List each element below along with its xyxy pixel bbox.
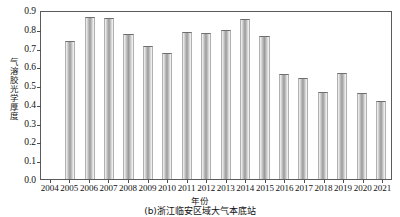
figure-caption: (b)浙江临安区域大气本底站 bbox=[0, 204, 400, 217]
bar-slot bbox=[197, 12, 216, 179]
bar-series bbox=[41, 12, 391, 179]
bar-slot bbox=[138, 12, 157, 179]
y-axis-tick-labels: 0.90.80.70.60.50.40.30.20.10.0 bbox=[14, 0, 38, 185]
x-axis-tick: 2011 bbox=[177, 180, 197, 194]
bar bbox=[85, 17, 95, 179]
x-axis-tick: 2012 bbox=[196, 180, 216, 194]
x-axis-tick-label: 2017 bbox=[295, 183, 313, 193]
bar-slot bbox=[41, 12, 60, 179]
bar bbox=[65, 41, 75, 179]
x-axis-tick: 2006 bbox=[79, 180, 99, 194]
y-axis-tick-mark bbox=[37, 87, 41, 88]
bar bbox=[318, 92, 328, 180]
y-axis-tick-label: 0.8 bbox=[24, 25, 36, 35]
x-axis-tick-label: 2007 bbox=[99, 183, 117, 193]
bar-slot bbox=[119, 12, 138, 179]
x-axis-tick: 2015 bbox=[255, 180, 275, 194]
x-axis-tick-label: 2006 bbox=[80, 183, 98, 193]
bar-slot bbox=[294, 12, 313, 179]
bar bbox=[182, 32, 192, 179]
y-axis-tick-label: 0.0 bbox=[24, 175, 36, 185]
x-axis-tick: 2019 bbox=[333, 180, 353, 194]
y-axis-tick-label: 0.2 bbox=[24, 137, 36, 147]
bar bbox=[123, 34, 133, 179]
x-axis-tick-label: 2010 bbox=[158, 183, 176, 193]
y-axis-tick-label: 0.5 bbox=[24, 81, 36, 91]
bar-slot bbox=[80, 12, 99, 179]
y-axis-tick-label: 0.3 bbox=[24, 119, 36, 129]
plot-area bbox=[40, 11, 392, 180]
x-axis-tick: 2007 bbox=[99, 180, 119, 194]
y-axis-tick-mark bbox=[37, 143, 41, 144]
y-axis-tick-label: 0.1 bbox=[24, 156, 36, 166]
bar-slot bbox=[99, 12, 118, 179]
x-axis-tick: 2020 bbox=[353, 180, 373, 194]
x-axis-tick: 2008 bbox=[118, 180, 138, 194]
x-axis-tick-labels: 2004200520062007200820092010201120122013… bbox=[40, 180, 392, 194]
bar-slot bbox=[313, 12, 332, 179]
bar-slot bbox=[333, 12, 352, 179]
x-axis-tick-label: 2021 bbox=[373, 183, 391, 193]
x-axis-tick-label: 2015 bbox=[256, 183, 274, 193]
bar-slot bbox=[371, 12, 390, 179]
bar-slot bbox=[235, 12, 254, 179]
x-axis-tick-label: 2012 bbox=[197, 183, 215, 193]
x-axis-tick: 2004 bbox=[40, 180, 60, 194]
y-axis-tick-label: 0.7 bbox=[24, 44, 36, 54]
y-axis-tick-mark bbox=[37, 106, 41, 107]
x-axis-tick-label: 2020 bbox=[354, 183, 372, 193]
bar bbox=[143, 46, 153, 179]
bar bbox=[279, 74, 289, 179]
x-axis-tick-label: 2014 bbox=[236, 183, 254, 193]
x-axis-tick: 2016 bbox=[275, 180, 295, 194]
bar-slot bbox=[60, 12, 79, 179]
x-axis-tick: 2021 bbox=[372, 180, 392, 194]
bar bbox=[337, 73, 347, 179]
x-axis-tick: 2010 bbox=[157, 180, 177, 194]
bar bbox=[240, 19, 250, 179]
y-axis-tick-mark bbox=[37, 125, 41, 126]
x-axis-tick: 2018 bbox=[314, 180, 334, 194]
x-axis-tick-label: 2013 bbox=[217, 183, 235, 193]
x-axis-tick-label: 2016 bbox=[275, 183, 293, 193]
bar-slot bbox=[352, 12, 371, 179]
bar bbox=[221, 30, 231, 179]
bar bbox=[162, 53, 172, 179]
x-axis-tick-label: 2019 bbox=[334, 183, 352, 193]
bar-slot bbox=[255, 12, 274, 179]
x-axis-tick-label: 2008 bbox=[119, 183, 137, 193]
x-axis-tick-label: 2004 bbox=[41, 183, 59, 193]
bar bbox=[259, 36, 269, 179]
bar-slot bbox=[274, 12, 293, 179]
bar bbox=[201, 33, 211, 179]
x-axis-tick-label: 2018 bbox=[315, 183, 333, 193]
x-axis-tick-label: 2009 bbox=[139, 183, 157, 193]
aerosol-optical-depth-bar-chart: 气溶胶光学厚度 0.90.80.70.60.50.40.30.20.10.0 2… bbox=[0, 0, 400, 217]
x-axis-tick: 2005 bbox=[60, 180, 80, 194]
bar bbox=[298, 78, 308, 179]
y-axis-tick-mark bbox=[37, 31, 41, 32]
bar bbox=[357, 93, 367, 179]
y-axis-tick-label: 0.6 bbox=[24, 62, 36, 72]
x-axis-tick: 2013 bbox=[216, 180, 236, 194]
x-axis-tick-label: 2011 bbox=[178, 183, 196, 193]
x-axis-tick-label: 2005 bbox=[60, 183, 78, 193]
x-axis-tick: 2009 bbox=[138, 180, 158, 194]
x-axis-tick: 2014 bbox=[236, 180, 256, 194]
bar bbox=[104, 18, 114, 179]
bar-slot bbox=[177, 12, 196, 179]
y-axis-tick-mark bbox=[37, 50, 41, 51]
y-axis-tick-label: 0.9 bbox=[24, 6, 36, 16]
y-axis-tick-mark bbox=[37, 68, 41, 69]
bar-slot bbox=[158, 12, 177, 179]
bar-slot bbox=[216, 12, 235, 179]
y-axis-tick-label: 0.4 bbox=[24, 100, 36, 110]
x-axis-tick: 2017 bbox=[294, 180, 314, 194]
y-axis-tick-mark bbox=[37, 162, 41, 163]
bar bbox=[376, 101, 386, 179]
